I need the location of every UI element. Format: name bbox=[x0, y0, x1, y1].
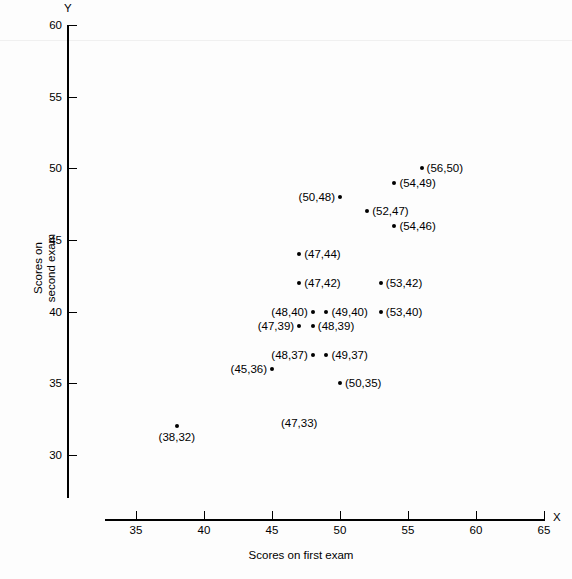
y-tick bbox=[69, 97, 77, 98]
x-tick-label: 45 bbox=[257, 524, 287, 536]
data-point-label: (48,40) bbox=[271, 306, 307, 318]
data-point-label: (53,40) bbox=[386, 306, 422, 318]
data-point-label: (54,49) bbox=[399, 177, 435, 189]
data-point bbox=[297, 281, 301, 285]
data-point-label: (45,36) bbox=[231, 363, 267, 375]
x-axis-title: Scores on first exam bbox=[0, 549, 572, 561]
data-point bbox=[338, 195, 342, 199]
data-point-label: (47,39) bbox=[258, 320, 294, 332]
data-point-label: (49,37) bbox=[331, 349, 367, 361]
data-point bbox=[338, 381, 342, 385]
x-tick bbox=[476, 511, 477, 519]
x-tick bbox=[408, 511, 409, 519]
y-tick-label: 35 bbox=[40, 377, 62, 389]
x-tick bbox=[340, 511, 341, 519]
data-point bbox=[311, 310, 315, 314]
data-point bbox=[324, 353, 328, 357]
data-point bbox=[420, 166, 424, 170]
data-point-label: (50,35) bbox=[345, 377, 381, 389]
data-point bbox=[175, 424, 179, 428]
y-tick bbox=[69, 383, 77, 384]
data-point-label: (47,44) bbox=[304, 248, 340, 260]
data-point bbox=[311, 324, 315, 328]
data-point bbox=[379, 281, 383, 285]
y-tick-label: 50 bbox=[40, 162, 62, 174]
y-tick-label: 30 bbox=[40, 449, 62, 461]
x-tick bbox=[272, 511, 273, 519]
data-point-label: (48,37) bbox=[271, 349, 307, 361]
x-axis-end-cap bbox=[544, 511, 545, 520]
data-point-label: (50,48) bbox=[299, 191, 335, 203]
y-axis-name: Y bbox=[64, 2, 72, 14]
scatter-plot-figure: Y X 30354045505560 35404550556065 (56,50… bbox=[0, 0, 572, 579]
y-tick bbox=[69, 168, 77, 169]
data-point bbox=[297, 252, 301, 256]
data-point-label: (38,32) bbox=[159, 431, 195, 443]
data-point bbox=[270, 367, 274, 371]
x-tick-label: 60 bbox=[461, 524, 491, 536]
data-point bbox=[392, 224, 396, 228]
data-point bbox=[324, 310, 328, 314]
x-tick bbox=[136, 511, 137, 519]
scan-artifact-line bbox=[0, 40, 572, 41]
data-point bbox=[311, 353, 315, 357]
y-axis-title: Scores on second exam bbox=[32, 208, 58, 328]
x-tick-label: 65 bbox=[529, 524, 559, 536]
data-point-label: (53,42) bbox=[386, 277, 422, 289]
data-point bbox=[365, 209, 369, 213]
y-tick bbox=[69, 312, 77, 313]
x-tick-label: 50 bbox=[325, 524, 355, 536]
data-point-label: (47,33) bbox=[281, 417, 317, 429]
x-tick-label: 55 bbox=[393, 524, 423, 536]
x-axis-line bbox=[105, 519, 545, 521]
x-axis-name: X bbox=[553, 511, 561, 523]
x-tick-label: 40 bbox=[189, 524, 219, 536]
data-point-label: (47,42) bbox=[304, 277, 340, 289]
y-tick-label: 55 bbox=[40, 91, 62, 103]
data-point bbox=[297, 324, 301, 328]
data-point-label: (48,39) bbox=[318, 320, 354, 332]
x-tick-label: 35 bbox=[121, 524, 151, 536]
y-tick bbox=[69, 25, 77, 26]
data-point bbox=[379, 310, 383, 314]
data-point-label: (54,46) bbox=[399, 220, 435, 232]
data-point-label: (52,47) bbox=[372, 205, 408, 217]
y-tick bbox=[69, 240, 77, 241]
x-tick bbox=[204, 511, 205, 519]
data-point bbox=[392, 181, 396, 185]
data-point-label: (49,40) bbox=[331, 306, 367, 318]
data-point-label: (56,50) bbox=[427, 162, 463, 174]
y-tick-label: 60 bbox=[40, 19, 62, 31]
y-tick bbox=[69, 455, 77, 456]
